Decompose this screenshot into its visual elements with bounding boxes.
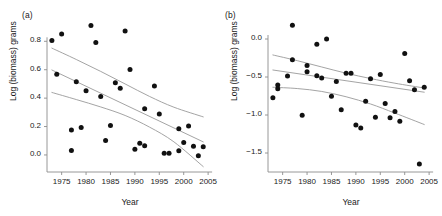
data-point <box>167 151 172 156</box>
x-tick-label-b-6: 2005 <box>413 177 442 186</box>
data-point <box>113 80 118 85</box>
data-point <box>285 74 290 79</box>
chart-panel-a: (a) Year Log (biomass) grams 0.00.20.40.… <box>0 0 221 216</box>
data-point <box>128 67 133 72</box>
y-axis-title-a: Log (biomass) grams <box>8 21 18 101</box>
data-point <box>353 122 358 127</box>
data-point <box>137 141 142 146</box>
y-tick-label-a-1: 0.2 <box>7 121 41 130</box>
x-axis-title-a: Year <box>45 197 215 207</box>
data-point <box>383 101 388 106</box>
data-point <box>368 76 373 81</box>
y-tick-label-a-2: 0.4 <box>7 92 41 101</box>
x-tick-label-a-6: 2005 <box>192 177 224 186</box>
data-point <box>300 113 305 118</box>
data-point <box>191 144 196 149</box>
data-point <box>305 63 310 68</box>
data-point <box>162 151 167 156</box>
confidence-band-b-0 <box>273 55 424 88</box>
data-point <box>270 95 275 100</box>
data-point <box>412 87 417 92</box>
data-point <box>402 51 407 56</box>
data-point <box>290 57 295 62</box>
data-point <box>349 71 354 76</box>
data-point <box>98 94 103 99</box>
data-point <box>157 112 162 117</box>
chart-panel-b: (b) Year Log (biomass) grams 0.0−0.5−1.0… <box>221 0 442 216</box>
data-point <box>314 42 319 47</box>
data-point <box>363 99 368 104</box>
data-point <box>334 79 339 84</box>
data-point <box>118 86 123 91</box>
data-point <box>275 86 280 91</box>
data-point <box>417 162 422 167</box>
y-tick-label-a-4: 0.8 <box>7 35 41 44</box>
data-point <box>305 69 310 74</box>
data-point <box>103 138 108 143</box>
data-point <box>201 144 206 149</box>
data-point <box>69 128 74 133</box>
data-point <box>123 29 128 34</box>
data-point <box>142 106 147 111</box>
data-point <box>196 153 201 158</box>
y-tick-label-b-0: 0.0 <box>228 33 262 42</box>
y-tick-label-a-3: 0.6 <box>7 64 41 73</box>
data-point <box>79 125 84 130</box>
data-point <box>314 73 319 78</box>
figure-container: (a) Year Log (biomass) grams 0.00.20.40.… <box>0 0 442 216</box>
x-axis-title-b: Year <box>266 197 436 207</box>
data-point <box>186 124 191 129</box>
data-point <box>358 126 363 131</box>
data-point <box>339 107 344 112</box>
data-point <box>142 143 147 148</box>
data-point <box>319 75 324 80</box>
y-tick-label-a-0: 0.0 <box>7 149 41 158</box>
y-tick-label-b-2: −1.0 <box>228 109 262 118</box>
data-point <box>108 123 113 128</box>
data-point <box>132 147 137 152</box>
data-point <box>344 71 349 76</box>
data-point <box>69 148 74 153</box>
data-point <box>88 23 93 28</box>
data-point <box>378 72 383 77</box>
data-point <box>373 115 378 120</box>
data-point <box>54 72 59 77</box>
data-point <box>84 88 89 93</box>
data-point <box>422 85 427 90</box>
confidence-band-b-1 <box>273 87 424 124</box>
data-point <box>59 31 64 36</box>
y-tick-label-b-1: −0.5 <box>228 71 262 80</box>
data-point <box>290 23 295 28</box>
data-point <box>176 148 181 153</box>
data-point <box>388 115 393 120</box>
data-point <box>392 109 397 114</box>
data-point <box>74 79 79 84</box>
data-point <box>49 38 54 43</box>
data-point <box>329 94 334 99</box>
y-tick-label-b-3: −1.5 <box>228 147 262 156</box>
data-point <box>152 84 157 89</box>
data-point <box>176 126 181 131</box>
data-point <box>324 37 329 42</box>
data-point <box>93 40 98 45</box>
data-point <box>407 78 412 83</box>
data-point <box>181 140 186 145</box>
data-point <box>397 119 402 124</box>
